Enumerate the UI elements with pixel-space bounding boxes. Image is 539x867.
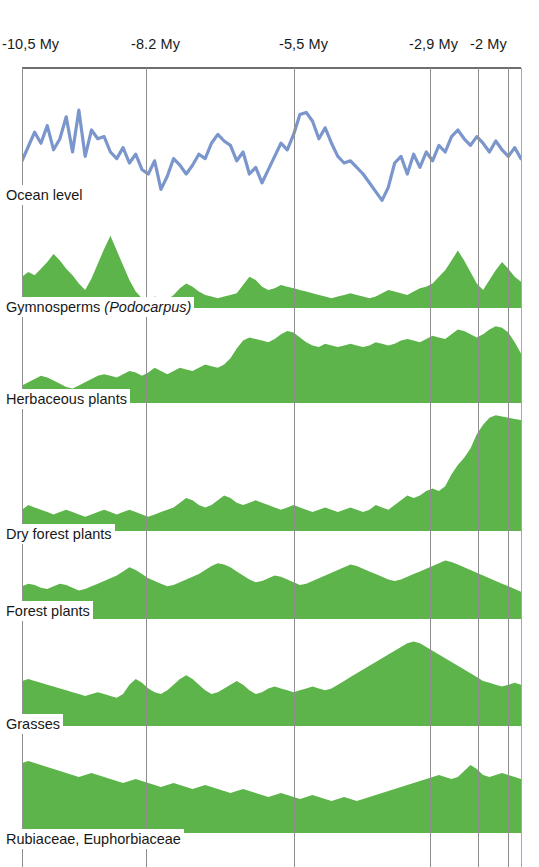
axis-tick-label-4: -2 My [470, 36, 507, 52]
panel-label-ocean-level: Ocean level [4, 185, 86, 205]
panel-label-taxon: (Podocarpus) [104, 299, 191, 315]
gridline-4 [478, 68, 479, 867]
plot-top-rule [22, 67, 521, 69]
area-fill-rubiaceae-euphorbiaceae [22, 761, 521, 833]
panel-label-dry-forest-plants: Dry forest plants [4, 524, 115, 544]
area-fill-grasses [22, 641, 521, 726]
gridline-5 [508, 68, 509, 867]
series-plot-gymnosperms [22, 215, 521, 308]
panel-label-text: Grasses [6, 716, 60, 732]
plot-right-edge [521, 68, 522, 867]
panel-label-grasses: Grasses [4, 714, 63, 734]
panel-gymnosperms [22, 215, 521, 308]
panel-label-text: Gymnosperms [6, 299, 104, 315]
panel-rubiaceae-euphorbiaceae [22, 726, 521, 833]
time-axis-header: -10,5 My-8.2 My-5,5 My-2,9 My-2 My [0, 0, 539, 68]
axis-tick-label-1: -8.2 My [131, 36, 180, 52]
series-plot-rubiaceae-euphorbiaceae [22, 726, 521, 833]
panel-label-text: Herbaceous plants [6, 391, 127, 407]
area-fill-dry-forest-plants [22, 415, 521, 531]
panel-label-text: Rubiaceae, Euphorbiaceae [6, 831, 181, 847]
panel-label-gymnosperms: Gymnosperms (Podocarpus) [4, 297, 194, 317]
panel-label-text: Ocean level [6, 187, 83, 203]
panel-grasses [22, 619, 521, 726]
ocean-level-line [22, 110, 521, 200]
panel-dry-forest-plants [22, 403, 521, 531]
series-plot-dry-forest-plants [22, 403, 521, 531]
gridline-1 [146, 68, 147, 867]
panel-label-forest-plants: Forest plants [4, 601, 93, 621]
panel-label-rubiaceae-euphorbiaceae: Rubiaceae, Euphorbiaceae [4, 829, 184, 849]
axis-tick-label-3: -2,9 My [409, 36, 458, 52]
axis-tick-label-2: -5,5 My [279, 36, 328, 52]
gridline-3 [430, 68, 431, 867]
panel-label-text: Dry forest plants [6, 526, 112, 542]
series-plot-grasses [22, 619, 521, 726]
series-plot-forest-plants [22, 531, 521, 619]
panel-label-herbaceous-plants: Herbaceous plants [4, 389, 130, 409]
pollen-diagram-figure: -10,5 My-8.2 My-5,5 My-2,9 My-2 My Ocean… [0, 0, 539, 867]
panel-forest-plants [22, 531, 521, 619]
axis-tick-label-0: -10,5 My [2, 36, 59, 52]
area-fill-forest-plants [22, 561, 521, 619]
gridline-2 [294, 68, 295, 867]
panel-ocean-level [22, 70, 521, 215]
panel-label-text: Forest plants [6, 603, 90, 619]
series-plot-ocean-level [22, 70, 521, 215]
